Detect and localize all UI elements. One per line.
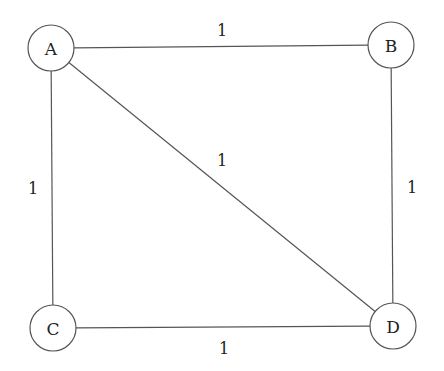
- node-d: D: [370, 303, 416, 349]
- graph-diagram: 1 1 1 1 1 A B C D: [0, 0, 444, 371]
- edge-a-c: [51, 71, 53, 305]
- edge-a-b: [74, 45, 368, 48]
- edge-weight-a-b: 1: [217, 21, 227, 40]
- node-d-label: D: [386, 317, 400, 337]
- node-c: C: [30, 305, 76, 351]
- edge-weight-c-d: 1: [219, 339, 229, 358]
- edge-b-d: [391, 68, 393, 303]
- node-a: A: [28, 25, 74, 71]
- edge-weight-a-d: 1: [217, 151, 227, 170]
- edge-weight-b-d: 1: [407, 178, 417, 197]
- edge-weight-a-c: 1: [28, 179, 38, 198]
- edges-group: [51, 45, 393, 328]
- edge-labels-group: 1 1 1 1 1: [28, 21, 417, 358]
- edge-c-d: [76, 326, 370, 328]
- node-b-label: B: [385, 36, 398, 56]
- edge-a-d: [69, 63, 375, 312]
- node-a-label: A: [44, 39, 58, 59]
- node-b: B: [368, 22, 414, 68]
- node-c-label: C: [46, 319, 59, 339]
